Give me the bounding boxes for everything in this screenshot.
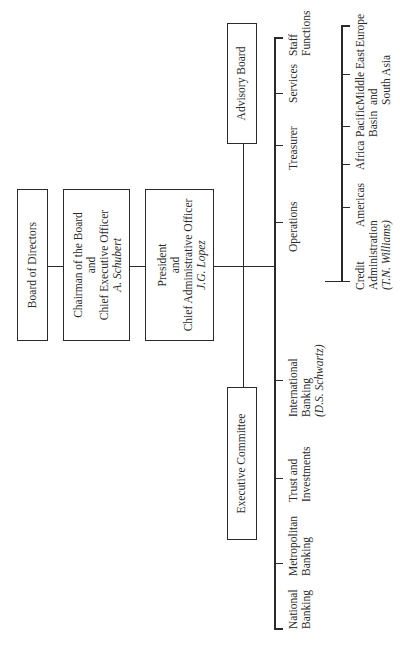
advisory-board-label: Advisory Board — [235, 23, 248, 144]
region-tick — [341, 74, 350, 75]
region-tick — [341, 126, 350, 127]
region-pacific-basin: Pacific Basin — [354, 105, 380, 137]
president-name: J.G. Lopez — [195, 189, 208, 341]
board-chairman-connector — [48, 266, 63, 267]
region-tick — [341, 25, 350, 27]
division-staff-functions: Staff Functions — [287, 11, 313, 56]
division-treasurer: Treasurer — [287, 126, 300, 170]
region-europe: Europe — [354, 14, 367, 47]
region-tick — [341, 281, 350, 282]
division-tick — [274, 145, 283, 146]
division-tick — [274, 37, 283, 39]
division-tick — [274, 93, 283, 94]
division-trust-investments: Trust and Investments — [287, 446, 313, 502]
division-metropolitan-banking: Metropolitan Banking — [287, 516, 313, 576]
region-middle-east-south-asia: Middle East and South Asia — [354, 49, 393, 105]
international-regions-connector — [325, 281, 342, 282]
chairman-label: Chairman of the Board and Chief Executiv… — [72, 189, 124, 341]
board-of-directors-label: Board of Directors — [26, 189, 39, 341]
president-label: President and Chief Administrative Offic… — [156, 189, 208, 341]
division-tick — [274, 478, 283, 479]
division-tick — [274, 563, 283, 564]
regions-bracket — [341, 25, 343, 282]
committee-trunk — [243, 144, 244, 387]
division-national-banking: National Banking — [287, 589, 313, 629]
region-tick — [341, 164, 350, 165]
chairman-name: A. Schubert — [111, 189, 124, 341]
chairman-president-connector — [130, 266, 145, 267]
division-services: Services — [287, 64, 300, 103]
division-tick — [274, 628, 283, 630]
divisions-bracket — [274, 37, 276, 630]
division-tick — [274, 222, 283, 223]
division-operations: Operations — [287, 202, 300, 252]
region-africa: Africa — [354, 141, 367, 170]
division-international-banking: International Banking (D.S. Schwartz) — [287, 344, 326, 417]
region-credit-administration: Credit Administration (T.N. Williams) — [354, 220, 393, 290]
region-tick — [341, 207, 350, 208]
executive-committee-label: Executive Committee — [235, 387, 248, 540]
division-tick — [274, 380, 283, 381]
region-americas: Americas — [354, 183, 367, 227]
